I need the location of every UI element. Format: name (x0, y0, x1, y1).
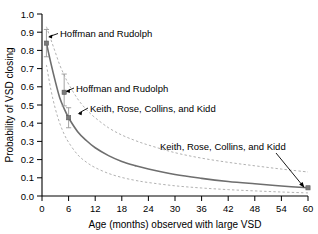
x-tick-label: 0 (39, 203, 44, 214)
y-tick-label: 1.0 (21, 9, 34, 20)
x-tick-label: 24 (143, 203, 154, 214)
chart-background (0, 0, 318, 234)
y-tick-label: 0.5 (21, 100, 34, 111)
y-tick-label: 0.8 (21, 45, 34, 56)
y-tick-label: 0.7 (21, 63, 34, 74)
x-tick-label: 12 (90, 203, 101, 214)
x-tick-label: 42 (223, 203, 234, 214)
x-axis-title: Age (months) observed with large VSD (89, 219, 262, 230)
y-tick-label: 0.1 (21, 172, 34, 183)
x-tick-label: 30 (170, 203, 181, 214)
annot-hoffman-2-label: Hoffman and Rudolph (76, 83, 168, 94)
y-tick-label: 0.6 (21, 81, 34, 92)
x-tick-label: 18 (117, 203, 128, 214)
annot-keith-2-label: Keith, Rose, Collins, and Kidd (160, 141, 286, 152)
data-point-marker (44, 41, 48, 45)
y-axis-title: Probability of VSD closing (4, 47, 15, 162)
x-tick-label: 6 (66, 203, 71, 214)
x-tick-label: 48 (250, 203, 261, 214)
y-tick-label: 0.2 (21, 154, 34, 165)
x-tick-label: 60 (303, 203, 314, 214)
y-tick-label: 0.0 (21, 191, 34, 202)
y-tick-label: 0.9 (21, 27, 34, 38)
vsd-closing-probability-chart: 0.0 0.1 0.2 0.3 0.4 0.5 0.6 0.7 0.8 0.9 … (0, 0, 318, 234)
y-axis-tick-labels: 0.0 0.1 0.2 0.3 0.4 0.5 0.6 0.7 0.8 0.9 … (21, 9, 34, 202)
data-point-marker (306, 186, 310, 190)
x-tick-label: 36 (196, 203, 207, 214)
y-tick-label: 0.4 (21, 118, 34, 129)
data-point-marker (67, 116, 71, 120)
y-tick-label: 0.3 (21, 136, 34, 147)
annot-hoffman-1-label: Hoffman and Rudolph (60, 28, 152, 39)
annot-keith-1-label: Keith, Rose, Collins, and Kidd (90, 103, 216, 114)
data-point-marker (62, 90, 66, 94)
x-tick-label: 54 (276, 203, 287, 214)
